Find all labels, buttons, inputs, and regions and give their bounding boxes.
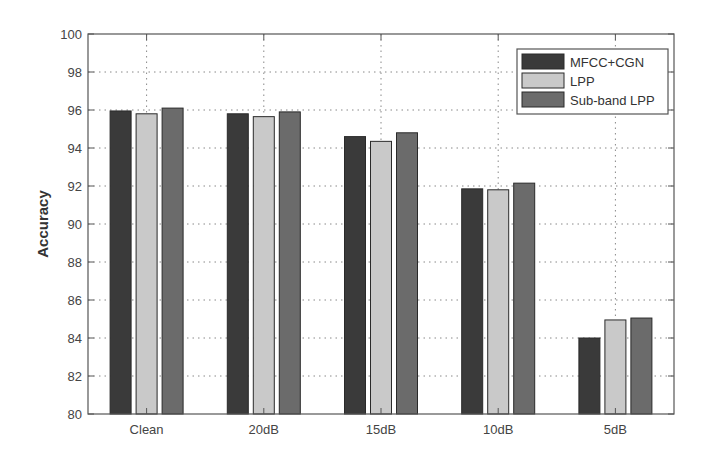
legend-swatch	[522, 73, 564, 88]
x-tick-label: 10dB	[483, 422, 513, 437]
y-tick-label: 84	[68, 331, 82, 346]
legend-label: LPP	[570, 74, 595, 89]
x-tick-label: Clean	[130, 422, 164, 437]
y-axis-title: Accuracy	[34, 190, 51, 258]
bar-sub-band-lpp-clean	[162, 108, 183, 414]
bar-mfcc-cgn-15db	[345, 137, 366, 414]
bar-mfcc-cgn-5db	[579, 338, 600, 414]
bar-sub-band-lpp-15db	[397, 133, 418, 414]
x-tick-label: 20dB	[249, 422, 279, 437]
legend-label: Sub-band LPP	[570, 93, 655, 108]
x-axis-tick-labels: Clean20dB15dB10dB5dB	[130, 422, 627, 437]
bar-chart: 80828486889092949698100 Clean20dB15dB10d…	[0, 0, 710, 460]
bars	[110, 108, 652, 414]
y-tick-label: 80	[68, 407, 82, 422]
bar-lpp-10db	[488, 190, 509, 414]
bar-sub-band-lpp-20db	[279, 112, 300, 414]
y-tick-label: 98	[68, 65, 82, 80]
y-tick-label: 94	[68, 141, 82, 156]
legend-label: MFCC+CGN	[570, 55, 644, 70]
y-tick-label: 96	[68, 103, 82, 118]
x-tick-label: 15dB	[366, 422, 396, 437]
legend-swatch	[522, 54, 564, 69]
legend-swatch	[522, 92, 564, 107]
y-tick-label: 100	[60, 27, 82, 42]
bar-lpp-20db	[253, 117, 274, 414]
bar-lpp-15db	[371, 141, 392, 414]
bar-mfcc-cgn-20db	[227, 114, 248, 414]
y-tick-label: 90	[68, 217, 82, 232]
bar-mfcc-cgn-clean	[110, 111, 131, 414]
legend: MFCC+CGNLPPSub-band LPP	[517, 49, 668, 114]
bar-sub-band-lpp-10db	[514, 183, 535, 414]
y-tick-label: 86	[68, 293, 82, 308]
x-tick-label: 5dB	[604, 422, 627, 437]
bar-sub-band-lpp-5db	[631, 318, 652, 414]
y-tick-label: 92	[68, 179, 82, 194]
y-axis-tick-labels: 80828486889092949698100	[60, 27, 82, 422]
y-tick-label: 88	[68, 255, 82, 270]
bar-mfcc-cgn-10db	[462, 189, 483, 414]
y-tick-label: 82	[68, 369, 82, 384]
bar-lpp-clean	[136, 114, 157, 414]
bar-lpp-5db	[605, 320, 626, 414]
